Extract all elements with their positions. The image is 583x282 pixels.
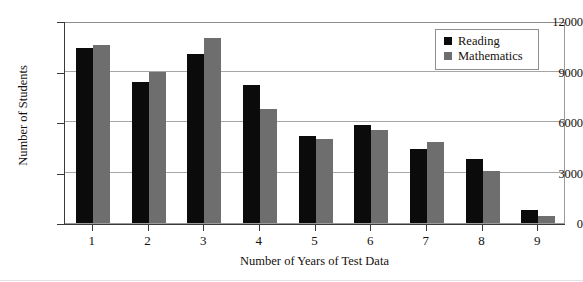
- bar-mathematics-3: [204, 38, 221, 223]
- y-axis-tick: [57, 123, 65, 124]
- x-axis-tick-label: 5: [300, 234, 330, 247]
- x-axis-tick-label: 7: [411, 234, 441, 247]
- legend-item: Reading: [444, 34, 531, 49]
- x-axis-tick-label: 4: [244, 234, 274, 247]
- x-axis-tick: [148, 225, 149, 231]
- x-axis-tick: [482, 225, 483, 231]
- x-axis-tick-label: 1: [77, 234, 107, 247]
- y-axis-title: Number of Students: [16, 36, 31, 196]
- y-axis-tick: [57, 22, 65, 23]
- legend-item: Mathematics: [444, 49, 531, 64]
- legend: Reading Mathematics: [435, 29, 539, 70]
- x-axis-tick: [426, 225, 427, 231]
- legend-label-reading: Reading: [458, 34, 500, 49]
- y-axis-tick-label: 6000: [527, 117, 583, 130]
- chart-figure: 030006000900012000 Number of Students 12…: [0, 0, 583, 282]
- x-axis-tick-label: 6: [355, 234, 385, 247]
- x-axis-tick: [537, 225, 538, 231]
- y-axis-tick: [57, 73, 65, 74]
- bar-mathematics-5: [316, 139, 333, 223]
- bar-mathematics-7: [427, 142, 444, 223]
- x-axis-tick-label: 9: [522, 234, 552, 247]
- bar-mathematics-2: [149, 72, 166, 224]
- bar-reading-4: [243, 85, 260, 223]
- bar-reading-7: [410, 149, 427, 223]
- x-axis-tick: [203, 225, 204, 231]
- x-axis-tick-label: 2: [133, 234, 163, 247]
- y-axis-tick-label: 3000: [527, 168, 583, 181]
- bar-mathematics-4: [260, 109, 277, 223]
- x-axis-tick: [259, 225, 260, 231]
- x-axis-tick: [315, 225, 316, 231]
- legend-label-mathematics: Mathematics: [458, 49, 523, 64]
- bar-reading-5: [299, 136, 316, 223]
- legend-swatch-reading-icon: [444, 37, 452, 45]
- legend-swatch-mathematics-icon: [444, 52, 452, 60]
- x-axis-tick: [92, 225, 93, 231]
- page-bottom-rule: [0, 280, 583, 281]
- x-axis-tick: [370, 225, 371, 231]
- y-axis-tick-label: 12000: [527, 16, 583, 29]
- bar-mathematics-6: [371, 130, 388, 223]
- bar-reading-1: [76, 48, 93, 223]
- y-axis-tick: [57, 174, 65, 175]
- bar-reading-2: [132, 82, 149, 223]
- x-axis-tick-label: 3: [188, 234, 218, 247]
- bar-reading-8: [466, 159, 483, 223]
- x-axis-title: Number of Years of Test Data: [64, 254, 565, 269]
- bar-reading-3: [187, 54, 204, 223]
- bar-mathematics-8: [483, 171, 500, 223]
- bar-mathematics-1: [93, 45, 110, 223]
- x-axis-tick-label: 8: [467, 234, 497, 247]
- bar-reading-6: [354, 125, 371, 223]
